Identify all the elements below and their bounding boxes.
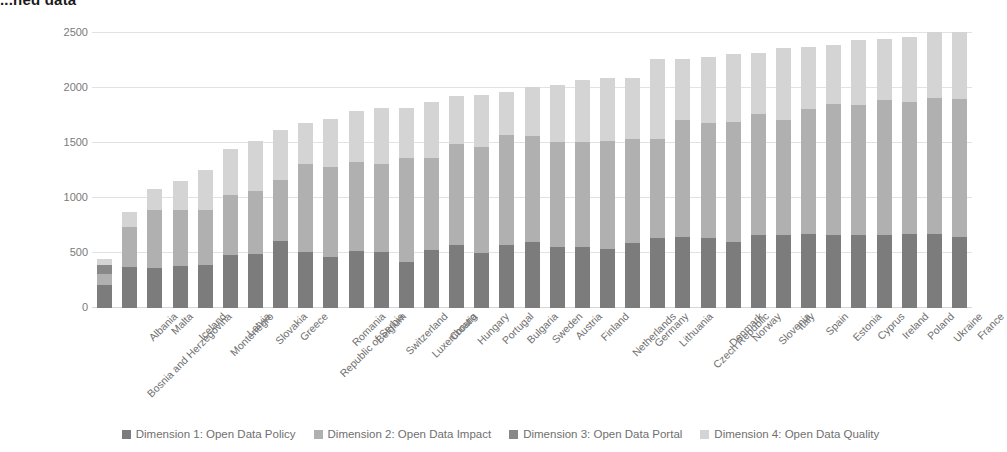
bar-segment[interactable]	[877, 100, 892, 235]
bar-segment[interactable]	[323, 257, 338, 308]
bar-segment[interactable]	[97, 285, 112, 308]
bar-segment[interactable]	[550, 247, 565, 308]
bar-segment[interactable]	[323, 119, 338, 167]
bar-segment[interactable]	[877, 39, 892, 100]
bar-segment[interactable]	[575, 247, 590, 308]
bar-segment[interactable]	[751, 114, 766, 235]
bar-segment[interactable]	[474, 95, 489, 147]
bar-group[interactable]	[97, 259, 112, 308]
bar-group[interactable]	[575, 80, 590, 308]
bar-segment[interactable]	[122, 267, 137, 308]
bar-segment[interactable]	[122, 212, 137, 227]
bar-group[interactable]	[349, 111, 364, 308]
bar-segment[interactable]	[625, 139, 640, 243]
bar-segment[interactable]	[952, 99, 967, 237]
bar-segment[interactable]	[424, 158, 439, 250]
bar-segment[interactable]	[198, 170, 213, 210]
bar-segment[interactable]	[776, 235, 791, 308]
bar-segment[interactable]	[550, 142, 565, 247]
bar-segment[interactable]	[701, 123, 716, 239]
bar-segment[interactable]	[173, 210, 188, 266]
bar-segment[interactable]	[223, 149, 238, 195]
bar-segment[interactable]	[751, 235, 766, 308]
bar-group[interactable]	[701, 57, 716, 308]
bar-segment[interactable]	[675, 237, 690, 309]
bar-segment[interactable]	[525, 242, 540, 308]
bar-group[interactable]	[248, 141, 263, 308]
bar-segment[interactable]	[851, 105, 866, 235]
bar-group[interactable]	[826, 45, 841, 308]
bar-group[interactable]	[424, 102, 439, 308]
bar-segment[interactable]	[726, 122, 741, 242]
bar-segment[interactable]	[952, 237, 967, 309]
bar-segment[interactable]	[525, 136, 540, 242]
legend-item[interactable]: Dimension 3: Open Data Portal	[509, 428, 682, 440]
bar-segment[interactable]	[122, 227, 137, 268]
bar-segment[interactable]	[877, 235, 892, 308]
bar-segment[interactable]	[273, 130, 288, 181]
bar-group[interactable]	[374, 108, 389, 308]
bar-segment[interactable]	[248, 141, 263, 191]
bar-segment[interactable]	[374, 108, 389, 165]
bar-segment[interactable]	[198, 210, 213, 265]
bar-group[interactable]	[902, 37, 917, 308]
legend-item[interactable]: Dimension 4: Open Data Quality	[700, 428, 879, 440]
bar-segment[interactable]	[499, 245, 514, 308]
bar-segment[interactable]	[801, 47, 816, 109]
bar-segment[interactable]	[298, 252, 313, 308]
bar-segment[interactable]	[952, 32, 967, 99]
bar-group[interactable]	[625, 78, 640, 308]
bar-segment[interactable]	[625, 78, 640, 140]
bar-segment[interactable]	[650, 238, 665, 308]
bar-segment[interactable]	[399, 262, 414, 308]
bar-segment[interactable]	[927, 98, 942, 233]
bar-segment[interactable]	[424, 250, 439, 308]
bar-segment[interactable]	[600, 78, 615, 142]
bar-segment[interactable]	[902, 102, 917, 234]
bar-segment[interactable]	[97, 274, 112, 284]
bar-group[interactable]	[223, 149, 238, 308]
bar-segment[interactable]	[801, 109, 816, 234]
bar-segment[interactable]	[173, 181, 188, 210]
bar-segment[interactable]	[525, 87, 540, 137]
bar-segment[interactable]	[675, 59, 690, 120]
bar-segment[interactable]	[349, 162, 364, 251]
bar-group[interactable]	[173, 181, 188, 308]
bar-segment[interactable]	[625, 243, 640, 308]
bar-segment[interactable]	[550, 85, 565, 142]
bar-segment[interactable]	[449, 245, 464, 308]
bar-segment[interactable]	[273, 180, 288, 241]
bar-segment[interactable]	[826, 45, 841, 104]
bar-segment[interactable]	[147, 189, 162, 210]
bar-group[interactable]	[600, 78, 615, 308]
bar-segment[interactable]	[650, 59, 665, 139]
bar-segment[interactable]	[248, 191, 263, 254]
bar-group[interactable]	[927, 32, 942, 308]
bar-group[interactable]	[801, 47, 816, 308]
bar-segment[interactable]	[273, 241, 288, 308]
bar-segment[interactable]	[575, 80, 590, 142]
bar-segment[interactable]	[902, 234, 917, 308]
bar-segment[interactable]	[776, 120, 791, 235]
bar-group[interactable]	[499, 92, 514, 308]
bar-segment[interactable]	[499, 135, 514, 244]
bar-group[interactable]	[323, 119, 338, 308]
bar-segment[interactable]	[701, 238, 716, 308]
bar-group[interactable]	[474, 95, 489, 308]
bar-segment[interactable]	[399, 158, 414, 262]
bar-segment[interactable]	[851, 40, 866, 105]
bar-segment[interactable]	[474, 253, 489, 308]
bar-group[interactable]	[198, 170, 213, 308]
bar-segment[interactable]	[776, 48, 791, 120]
bar-segment[interactable]	[575, 142, 590, 247]
bar-group[interactable]	[650, 59, 665, 308]
legend-item[interactable]: Dimension 2: Open Data Impact	[314, 428, 492, 440]
bar-segment[interactable]	[349, 111, 364, 162]
bar-group[interactable]	[273, 130, 288, 308]
bar-segment[interactable]	[424, 102, 439, 158]
bar-segment[interactable]	[751, 53, 766, 114]
bar-segment[interactable]	[701, 57, 716, 123]
bar-group[interactable]	[952, 32, 967, 308]
bar-segment[interactable]	[97, 265, 112, 275]
bar-segment[interactable]	[147, 210, 162, 268]
